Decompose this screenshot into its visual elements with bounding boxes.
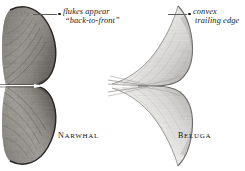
- narwhal-lower-lobe: [0, 82, 96, 171]
- narwhal-leader-line: [33, 14, 57, 15]
- beluga-callout-line2: trailing edge: [193, 16, 239, 25]
- narwhal-species-caption: Narwhal: [58, 128, 99, 140]
- beluga-lower-lobe: [112, 86, 208, 166]
- illustration-plate: flukes appear “back-to-front” convex tra…: [0, 0, 245, 171]
- narwhal-callout-line2: “back-to-front”: [63, 16, 120, 25]
- beluga-leader-dot: [188, 13, 191, 16]
- beluga-species-caption: Beluga: [178, 128, 211, 140]
- beluga-leader-line: [168, 14, 187, 15]
- narwhal-callout-line1: flukes appear: [63, 7, 110, 16]
- beluga-callout-label: convex trailing edge: [193, 7, 239, 26]
- narwhal-leader-dot: [58, 13, 61, 16]
- narwhal-callout-label: flukes appear “back-to-front”: [63, 7, 120, 26]
- beluga-callout-line1: convex: [193, 7, 217, 16]
